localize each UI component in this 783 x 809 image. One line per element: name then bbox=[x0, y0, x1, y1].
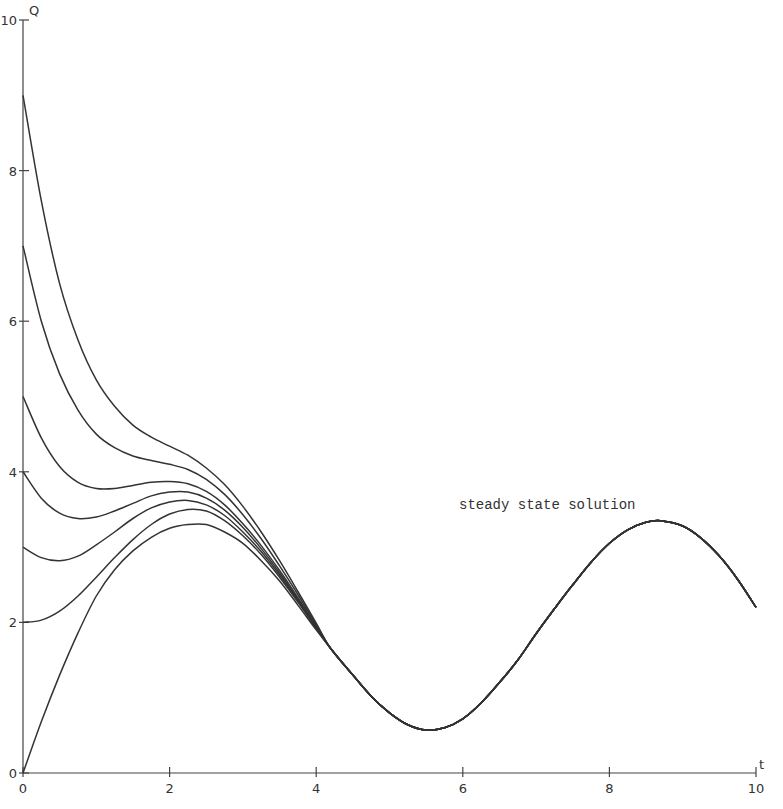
x-tick-label: 6 bbox=[459, 781, 467, 796]
y-tick-label: 8 bbox=[9, 164, 17, 179]
y-axis-label: Q bbox=[29, 3, 39, 18]
x-tick-label: 2 bbox=[165, 781, 173, 796]
y-tick-label: 6 bbox=[9, 314, 17, 329]
solution-curve bbox=[23, 397, 756, 731]
solution-curve bbox=[23, 520, 756, 773]
y-tick-label: 0 bbox=[9, 766, 17, 781]
x-axis-label: t bbox=[759, 757, 764, 772]
solution-curves bbox=[23, 95, 756, 773]
x-tick-label: 8 bbox=[605, 781, 613, 796]
x-tick-label: 10 bbox=[748, 781, 765, 796]
chart-canvas: 0246810 0246810 t Q steady state solutio… bbox=[0, 0, 783, 809]
x-tick-label: 0 bbox=[19, 781, 27, 796]
solution-curve bbox=[23, 509, 756, 730]
y-tick-label: 2 bbox=[9, 615, 17, 630]
y-tick-label: 4 bbox=[9, 465, 17, 480]
axes: 0246810 0246810 t Q bbox=[0, 3, 764, 796]
solution-curve bbox=[23, 472, 756, 730]
solution-curve bbox=[23, 246, 756, 730]
steady-state-annotation: steady state solution bbox=[459, 497, 635, 513]
y-ticks: 0246810 bbox=[0, 13, 29, 781]
solution-curve bbox=[23, 500, 756, 730]
x-tick-label: 4 bbox=[312, 781, 320, 796]
y-tick-label: 10 bbox=[0, 13, 17, 28]
solution-curve bbox=[23, 95, 756, 730]
x-ticks: 0246810 bbox=[19, 767, 764, 796]
